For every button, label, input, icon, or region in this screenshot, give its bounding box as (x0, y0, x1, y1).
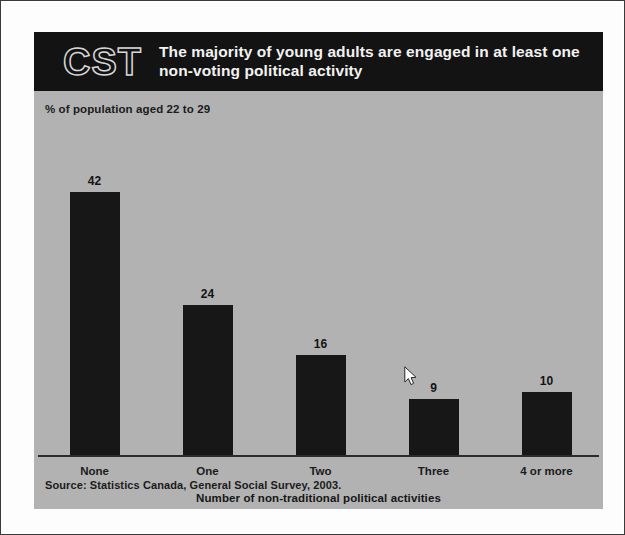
bar-value-label: 42 (88, 174, 101, 188)
cst-wordmark-icon: CST (34, 43, 159, 81)
bar-slot: 16 (264, 155, 377, 455)
cst-logo-text: CST (63, 43, 142, 81)
plot-area: 422416910 NoneOneTwoThree4 or more Numbe… (34, 91, 603, 509)
bar-value-label: 9 (430, 381, 437, 395)
bar-slot: 9 (377, 155, 490, 455)
category-label: Three (377, 465, 490, 477)
outer-mat: CST The majority of young adults are eng… (3, 3, 622, 532)
bar[interactable] (70, 192, 120, 455)
chart-title: The majority of young adults are engaged… (159, 43, 603, 80)
bar-slot: 10 (490, 155, 603, 455)
source-note: Source: Statistics Canada, General Socia… (45, 479, 341, 491)
bar[interactable] (183, 305, 233, 455)
bar[interactable] (522, 392, 572, 455)
category-label: None (38, 465, 151, 477)
chart-header-band: CST The majority of young adults are eng… (34, 32, 603, 91)
screenshot-root: CST The majority of young adults are eng… (0, 0, 625, 535)
bar-value-label: 24 (201, 287, 214, 301)
category-label: Two (264, 465, 377, 477)
bar-value-label: 10 (540, 374, 553, 388)
bar[interactable] (296, 355, 346, 455)
x-axis-baseline (38, 455, 599, 457)
bar[interactable] (409, 399, 459, 455)
category-label: 4 or more (490, 465, 603, 477)
bar-value-label: 16 (314, 337, 327, 351)
chart-panel: CST The majority of young adults are eng… (34, 32, 603, 509)
category-label: One (151, 465, 264, 477)
x-axis-title: Number of non-traditional political acti… (34, 492, 603, 504)
bar-slot: 24 (151, 155, 264, 455)
bar-slot: 42 (38, 155, 151, 455)
